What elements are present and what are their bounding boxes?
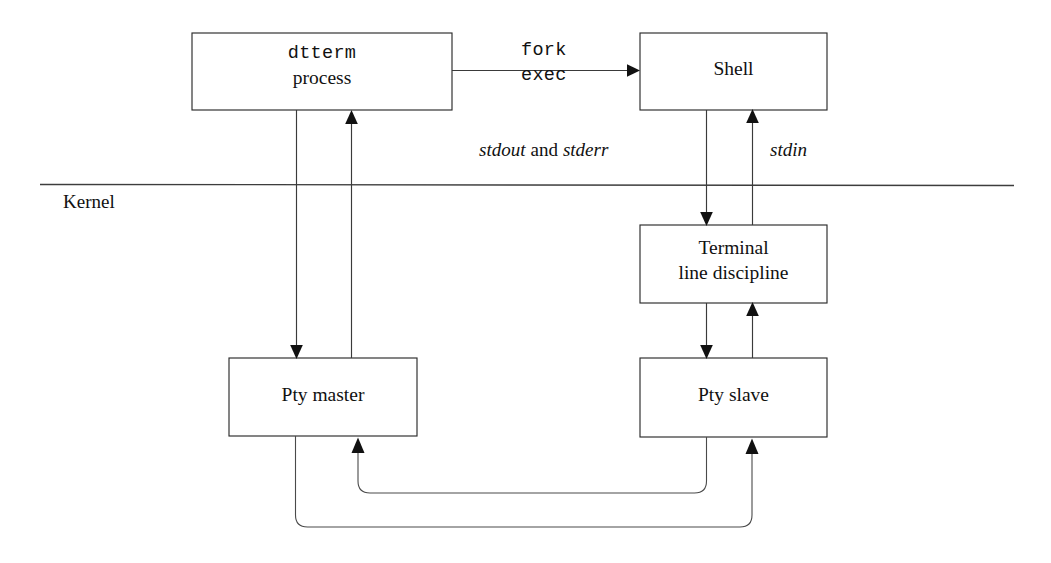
connector-shell-to-line-discipline	[700, 110, 713, 226]
kernel-label: Kernel	[63, 191, 115, 212]
edge-label-stdin: stdin	[770, 139, 807, 160]
connector-pty-slave-to-pty-master-loop	[352, 437, 707, 493]
connector-line-discipline-to-pty-slave	[700, 303, 713, 359]
connector-line-discipline-to-shell	[746, 109, 759, 225]
box-dtterm-process-label: dtterm process	[192, 44, 452, 89]
edge-label-stderr: stderr	[563, 139, 608, 160]
box-shell-label: Shell	[640, 58, 827, 80]
box-dtterm-process-line2: process	[192, 67, 452, 89]
box-pty-slave-label: Pty slave	[640, 384, 827, 406]
edge-label-stdout-stderr: stdoutandstderr	[479, 139, 608, 160]
box-terminal-line-discipline-line1: Terminal	[640, 237, 827, 259]
edge-label-stdout: stdout	[479, 139, 525, 160]
connector-dtterm-to-pty-master	[290, 110, 303, 359]
box-pty-master-label: Pty master	[229, 384, 417, 406]
edge-label-exec: exec	[521, 66, 567, 87]
diagram-canvas: dtterm process Shell Terminal line disci…	[0, 0, 1051, 563]
box-terminal-line-discipline-line2: line discipline	[640, 262, 827, 284]
box-dtterm-process-line1: dtterm	[192, 44, 452, 65]
box-terminal-line-discipline-label: Terminal line discipline	[640, 237, 827, 284]
connector-pty-master-to-dtterm	[345, 110, 358, 358]
connector-pty-master-to-pty-slave-loop	[296, 436, 759, 527]
kernel-divider-line	[40, 185, 1014, 186]
edge-label-fork: fork	[521, 41, 567, 62]
edge-label-and-word: and	[530, 139, 557, 160]
connector-pty-slave-to-line-discipline	[746, 302, 759, 358]
